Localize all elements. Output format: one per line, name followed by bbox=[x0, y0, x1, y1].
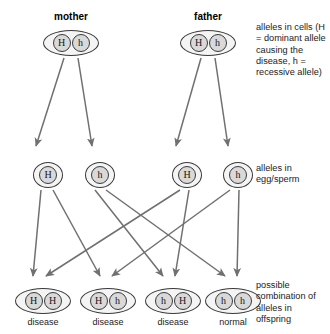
father-gamete-2: h bbox=[223, 162, 253, 188]
father-label: father bbox=[168, 11, 248, 22]
allele-token: h bbox=[209, 34, 227, 52]
arrow-mother-to-gamete-2 bbox=[78, 58, 92, 146]
arrow-gamete-mH-to-offspring-2 bbox=[53, 190, 100, 276]
allele-token: h bbox=[72, 34, 90, 52]
offspring-1-outcome: disease bbox=[8, 317, 78, 327]
arrow-gamete-fh-to-offspring-4 bbox=[237, 190, 239, 276]
arrow-mother-to-gamete-1 bbox=[36, 58, 64, 146]
mother-gamete-2: h bbox=[85, 162, 115, 188]
father-gamete-1: H bbox=[172, 162, 202, 188]
allele-token: h bbox=[109, 292, 127, 310]
offspring-1-cell: H H bbox=[15, 288, 71, 314]
allele-token: H bbox=[39, 166, 57, 184]
offspring-2-cell: H h bbox=[80, 288, 136, 314]
mother-label: mother bbox=[31, 11, 111, 22]
allele-token: h bbox=[215, 292, 233, 310]
allele-token: H bbox=[53, 34, 71, 52]
allele-token: H bbox=[190, 34, 208, 52]
allele-token: H bbox=[44, 292, 62, 310]
genetics-inheritance-diagram: mother father H h H h H h H h H H diseas… bbox=[0, 0, 330, 334]
offspring-4-cell: h h bbox=[205, 288, 261, 314]
annotation-gametes: alleles in egg/sperm bbox=[256, 163, 328, 186]
allele-token: H bbox=[174, 292, 192, 310]
allele-token: h bbox=[229, 166, 247, 184]
mother-cell: H h bbox=[43, 30, 99, 56]
arrow-gamete-fH-to-offspring-3 bbox=[175, 190, 189, 276]
arrow-father-to-gamete-1 bbox=[176, 58, 201, 146]
allele-token: h bbox=[155, 292, 173, 310]
father-cell: H h bbox=[180, 30, 236, 56]
annotation-cells: alleles in cells (H = dominant allele ca… bbox=[256, 22, 328, 78]
allele-token: h bbox=[234, 292, 252, 310]
arrow-gamete-fH-to-offspring-1 bbox=[46, 190, 180, 276]
allele-token: h bbox=[91, 166, 109, 184]
arrow-gamete-mH-to-offspring-1 bbox=[33, 190, 41, 276]
arrow-father-to-gamete-2 bbox=[215, 58, 228, 146]
arrow-gamete-mh-to-offspring-4 bbox=[106, 190, 225, 276]
offspring-3-cell: h H bbox=[145, 288, 201, 314]
mother-gamete-1: H bbox=[33, 162, 63, 188]
allele-token: H bbox=[25, 292, 43, 310]
annotation-offspring: possible combination of alleles in offsp… bbox=[256, 280, 328, 325]
allele-token: H bbox=[90, 292, 108, 310]
offspring-2-outcome: disease bbox=[73, 317, 143, 327]
allele-token: H bbox=[178, 166, 196, 184]
